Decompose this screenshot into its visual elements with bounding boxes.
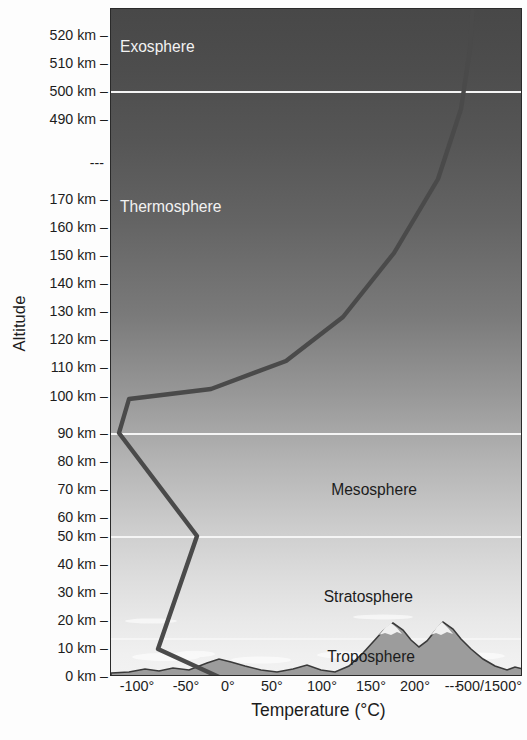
y-tick-dash: – [100,426,108,440]
y-tick-dash: – [100,613,108,627]
x-tick-label: 100° [307,679,337,693]
y-tick-dash: – [100,557,108,571]
y-tick-label: 60 km– [8,510,108,524]
y-tick-label: --- [8,156,108,170]
layer-label-troposphere: Troposphere [327,649,415,665]
y-tick-dash: – [100,510,108,524]
y-tick-label: 80 km– [8,454,108,468]
y-tick-label: 510 km– [8,56,108,70]
y-tick-label: 150 km– [8,248,108,262]
y-tick-label: 490 km– [8,112,108,126]
y-tick-dash: – [100,248,108,262]
x-tick-label: -100° [120,679,155,693]
y-tick-dash: – [100,112,108,126]
layer-label-mesosphere: Mesosphere [331,482,417,498]
y-tick-label: 20 km– [8,613,108,627]
y-tick-label: 110 km– [8,360,108,374]
y-tick-label: 90 km– [8,426,108,440]
atmosphere-temperature-chart: Altitude 520 km–510 km–500 km–490 km–---… [0,0,527,740]
x-axis-tick-labels: -100°-50°0°50°100°150°200°---500/1500° [0,679,527,701]
y-tick-label: 10 km– [8,641,108,655]
y-tick-label: 120 km– [8,332,108,346]
layer-boundary-lines [111,92,522,639]
layer-label-stratosphere: Stratosphere [324,589,413,605]
y-tick-dash: – [100,192,108,206]
y-tick-dash: – [100,276,108,290]
y-tick-label: 70 km– [8,482,108,496]
y-axis-tick-labels: 520 km–510 km–500 km–490 km–---170 km–16… [0,0,108,740]
y-tick-dash: – [100,304,108,318]
y-tick-dash: – [100,56,108,70]
x-tick-label: 0° [221,679,235,693]
layer-label-thermosphere: Thermosphere [120,199,221,215]
y-tick-dash: – [100,585,108,599]
layer-label-exosphere: Exosphere [120,39,195,55]
y-tick-dash: – [100,641,108,655]
x-axis-title: Temperature (°C) [110,700,527,721]
y-tick-label: 50 km– [8,529,108,543]
y-tick-label: 40 km– [8,557,108,571]
y-tick-dash: – [100,529,108,543]
temperature-curve [119,9,473,676]
x-tick-label: 500/1500° [456,679,522,693]
y-tick-label: 500 km– [8,84,108,98]
y-tick-label: 140 km– [8,276,108,290]
y-tick-label: 520 km– [8,28,108,42]
x-tick-label: -50° [173,679,200,693]
y-tick-label: 100 km– [8,389,108,403]
y-tick-dash: – [100,389,108,403]
terrain-silhouette [111,622,522,676]
plot-svg [111,9,522,676]
y-tick-dash: – [100,28,108,42]
y-tick-dash: – [100,482,108,496]
plot-area: ExosphereThermosphereMesosphereStratosph… [110,8,522,676]
y-tick-dash: – [100,454,108,468]
x-tick-label: 50° [261,679,283,693]
y-tick-label: 130 km– [8,304,108,318]
y-tick-dash: – [100,220,108,234]
y-tick-dash: – [100,332,108,346]
y-tick-dash: – [100,84,108,98]
x-tick-label: 150° [356,679,386,693]
y-tick-dash: – [100,360,108,374]
y-tick-label: 170 km– [8,192,108,206]
x-tick-label: 200° [400,679,430,693]
y-tick-label: 160 km– [8,220,108,234]
y-tick-label: 30 km– [8,585,108,599]
